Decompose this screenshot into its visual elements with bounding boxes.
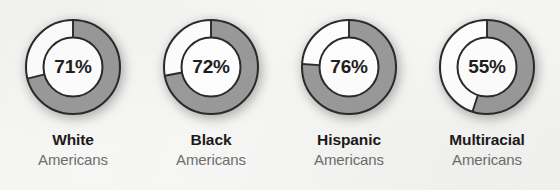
- donut-graphic: 55%: [432, 12, 542, 124]
- donut-chart-row: 71% White Americans 72% Black Americans …: [0, 0, 560, 190]
- donut-label-secondary: Americans: [449, 150, 525, 169]
- donut-graphic: 76%: [294, 12, 404, 124]
- donut-percent-label: 76%: [294, 12, 404, 122]
- donut-caption: White Americans: [38, 130, 108, 169]
- donut-label-primary: Multiracial: [449, 130, 525, 150]
- donut-percent-label: 72%: [156, 12, 266, 122]
- donut-graphic: 72%: [156, 12, 266, 124]
- donut-label-secondary: Americans: [38, 150, 108, 169]
- donut-label-primary: Black: [176, 130, 246, 150]
- donut-percent-label: 71%: [18, 12, 128, 122]
- donut-graphic: 71%: [18, 12, 128, 124]
- donut-chart-hispanic: 76% Hispanic Americans: [282, 0, 416, 169]
- donut-percent-label: 55%: [432, 12, 542, 122]
- donut-label-secondary: Americans: [176, 150, 246, 169]
- donut-chart-white: 71% White Americans: [6, 0, 140, 169]
- donut-caption: Black Americans: [176, 130, 246, 169]
- donut-caption: Multiracial Americans: [449, 130, 525, 169]
- donut-label-primary: Hispanic: [314, 130, 384, 150]
- donut-caption: Hispanic Americans: [314, 130, 384, 169]
- donut-chart-black: 72% Black Americans: [144, 0, 278, 169]
- donut-label-secondary: Americans: [314, 150, 384, 169]
- donut-chart-multiracial: 55% Multiracial Americans: [420, 0, 554, 169]
- donut-label-primary: White: [38, 130, 108, 150]
